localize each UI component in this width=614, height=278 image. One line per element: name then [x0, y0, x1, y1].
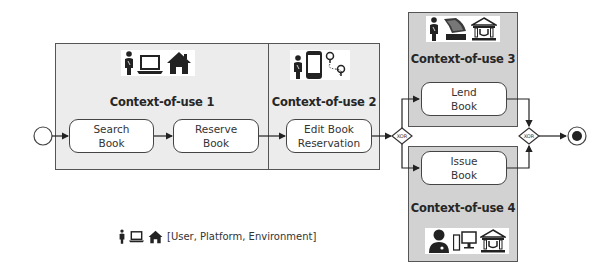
task-issue-book[interactable]: IssueBook [421, 151, 507, 185]
legend: [User, Platform, Environment] [119, 229, 316, 244]
xor-split-gateway: XOR [392, 128, 412, 144]
home-icon [148, 230, 163, 244]
svg-text:XOR: XOR [397, 133, 408, 139]
start-node [34, 127, 52, 145]
xor-join-gateway: XOR [519, 128, 539, 144]
task-lend-book[interactable]: LendBook [421, 82, 507, 116]
legend-text: [User, Platform, Environment] [167, 231, 316, 242]
svg-text:XOR: XOR [524, 133, 535, 139]
laptop-icon [129, 231, 144, 243]
task-reserve-book[interactable]: ReserveBook [173, 119, 259, 153]
task-edit-book-reservation[interactable]: Edit BookReservation [286, 119, 372, 153]
task-search-book[interactable]: SearchBook [69, 119, 154, 153]
user-icon [119, 229, 125, 244]
